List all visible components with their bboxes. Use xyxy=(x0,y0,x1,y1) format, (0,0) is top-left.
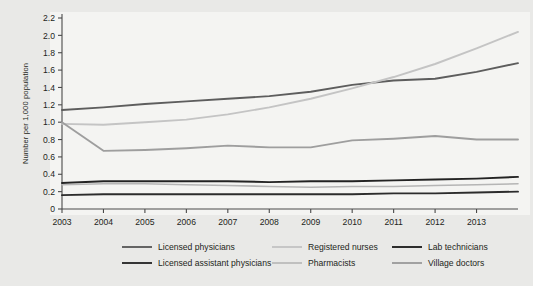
x-tick-label: 2007 xyxy=(218,217,237,227)
y-tick-label: 0.2 xyxy=(43,187,55,197)
y-tick-label: 0.6 xyxy=(43,152,55,162)
y-tick-label: 0.4 xyxy=(43,169,55,179)
y-tick-label: 0 xyxy=(50,204,55,214)
y-axis-label: Number per 1,000 population xyxy=(21,63,30,164)
y-tick-label: 2.0 xyxy=(43,31,55,41)
legend-label: Lab technicians xyxy=(428,242,488,252)
x-tick-label: 2013 xyxy=(467,217,486,227)
y-tick-label: 2.2 xyxy=(43,13,55,23)
legend-label: Licensed assistant physicians xyxy=(158,258,271,268)
y-tick-label: 1.2 xyxy=(43,100,55,110)
y-tick-label: 1.4 xyxy=(43,83,55,93)
x-tick-label: 2010 xyxy=(343,217,362,227)
y-axis-title: Number per 1,000 population xyxy=(21,63,30,164)
line-chart: 00.20.40.60.81.01.21.41.61.82.02.2 20032… xyxy=(0,0,533,286)
y-tick-label: 1.6 xyxy=(43,65,55,75)
x-tick-label: 2006 xyxy=(177,217,196,227)
x-tick-label: 2005 xyxy=(135,217,154,227)
y-tick-label: 1.0 xyxy=(43,117,55,127)
chart-figure: 00.20.40.60.81.01.21.41.61.82.02.2 20032… xyxy=(0,0,533,286)
legend-label: Licensed physicians xyxy=(158,242,235,252)
x-tick-label: 2009 xyxy=(301,217,320,227)
legend-label: Pharmacists xyxy=(308,258,355,268)
x-tick-label: 2008 xyxy=(260,217,279,227)
x-tick-label: 2003 xyxy=(52,217,71,227)
x-tick-label: 2012 xyxy=(426,217,445,227)
x-tick-label: 2011 xyxy=(384,217,403,227)
y-tick-label: 1.8 xyxy=(43,48,55,58)
legend-label: Village doctors xyxy=(428,258,484,268)
y-tick-label: 0.8 xyxy=(43,135,55,145)
legend-label: Registered nurses xyxy=(308,242,378,252)
x-tick-label: 2004 xyxy=(94,217,113,227)
